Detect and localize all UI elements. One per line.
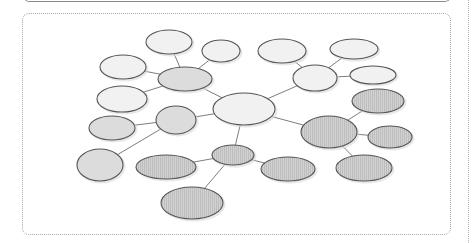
bubble-node-D [100, 55, 149, 82]
mind-map-diagram [0, 0, 473, 243]
bubble-node-J [350, 66, 399, 87]
bubble-node-K [352, 89, 407, 116]
bubble-node-M [368, 126, 415, 151]
bubble-node-N [336, 155, 395, 184]
bubble-node-T [261, 157, 318, 184]
bubble-node-S [212, 145, 257, 168]
bubble-node-A [146, 30, 195, 57]
bubble-node-U [161, 187, 226, 222]
bubble-node-F [213, 93, 278, 128]
bubble-nodes [77, 30, 415, 222]
bubble-node-E [97, 86, 150, 115]
bubble-node-P [89, 116, 138, 143]
bubble-node-L [301, 116, 360, 151]
bubble-node-H [330, 39, 381, 62]
bubble-node-R [136, 155, 199, 182]
bubble-node-O [156, 106, 199, 137]
bubble-node-C [158, 67, 215, 94]
bubble-node-I [293, 65, 340, 94]
bubble-node-G [258, 39, 309, 66]
